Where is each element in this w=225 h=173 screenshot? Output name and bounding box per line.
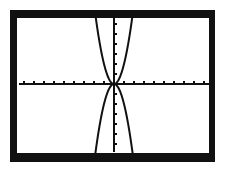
graph-screen xyxy=(17,18,209,153)
graph-plot xyxy=(17,18,209,153)
calculator-screen-frame xyxy=(10,10,215,162)
graph-description: Graphing calculator screen with two para… xyxy=(0,0,1,1)
